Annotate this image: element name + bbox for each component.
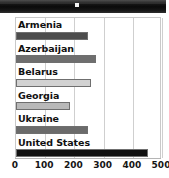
bar-row: Ukraine	[16, 113, 160, 137]
x-tick-label: 500	[152, 160, 169, 170]
bar[interactable]	[16, 102, 70, 110]
window-titlebar[interactable]	[0, 0, 169, 14]
category-label: United States	[18, 137, 90, 149]
bar-row: Belarus	[16, 66, 160, 90]
gridline-500	[162, 18, 163, 158]
bar[interactable]	[16, 32, 88, 40]
chart-screenshot: ArmeniaAzerbaijanBelarusGeorgiaUkraineUn…	[0, 0, 169, 178]
category-label: Ukraine	[18, 113, 59, 125]
titlebar-right-edge	[166, 0, 169, 13]
chart-plot-wrapper: ArmeniaAzerbaijanBelarusGeorgiaUkraineUn…	[0, 13, 169, 178]
bar-row: Armenia	[16, 19, 160, 43]
x-tick-label: 200	[64, 160, 83, 170]
x-tick-label: 0	[12, 160, 18, 170]
x-tick-label: 300	[93, 160, 112, 170]
category-label: Georgia	[18, 90, 59, 102]
bar[interactable]	[16, 149, 148, 157]
bar[interactable]	[16, 55, 96, 63]
x-tick-label: 400	[122, 160, 141, 170]
category-label: Azerbaijan	[18, 43, 74, 55]
bar-row: United States	[16, 137, 160, 161]
bar-rows: ArmeniaAzerbaijanBelarusGeorgiaUkraineUn…	[16, 18, 160, 158]
bar[interactable]	[16, 126, 88, 134]
x-axis-baseline	[15, 158, 161, 159]
plot-area: ArmeniaAzerbaijanBelarusGeorgiaUkraineUn…	[15, 17, 161, 158]
x-tick-label: 100	[35, 160, 54, 170]
x-axis-ticks: 0100200300400500	[0, 160, 169, 176]
bar[interactable]	[16, 79, 91, 87]
category-label: Belarus	[18, 66, 58, 78]
category-label: Armenia	[18, 19, 62, 31]
bar-row: Georgia	[16, 90, 160, 114]
titlebar-marker-icon	[75, 3, 79, 7]
bar-row: Azerbaijan	[16, 43, 160, 67]
